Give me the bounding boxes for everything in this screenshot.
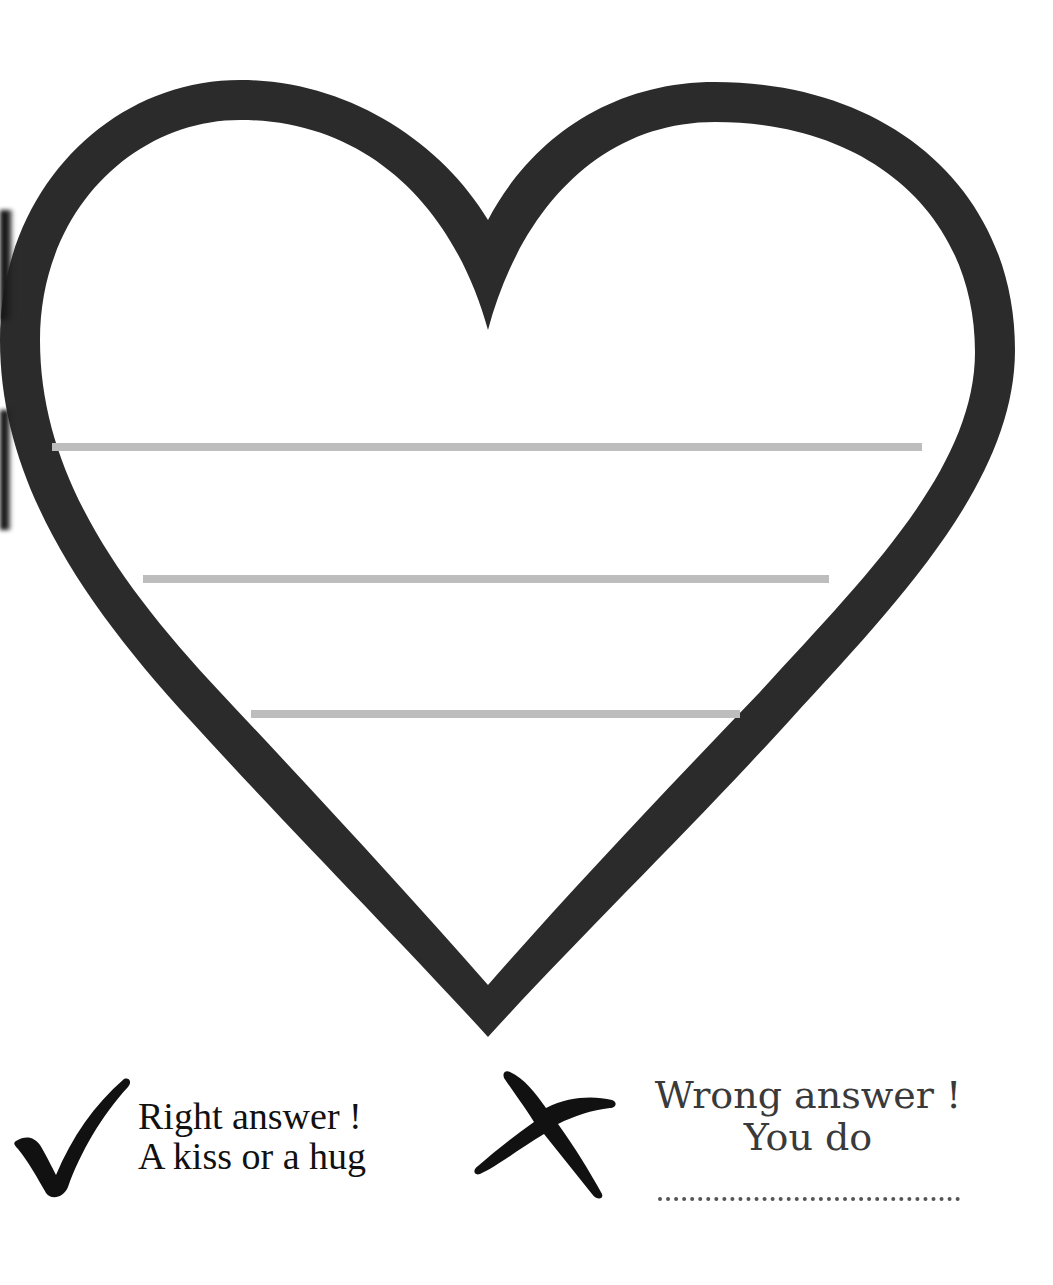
- right-answer-line2: A kiss or a hug: [138, 1136, 366, 1176]
- cross-icon: [474, 1068, 624, 1200]
- wrong-answer-text: Wrong answer ! You do: [650, 1074, 966, 1158]
- right-answer-line1: Right answer !: [138, 1096, 366, 1136]
- wrong-answer-line1: Wrong answer !: [650, 1074, 966, 1116]
- right-answer-text: Right answer ! A kiss or a hug: [138, 1096, 366, 1176]
- scan-artifact: [0, 210, 14, 320]
- scan-artifact: [0, 410, 12, 530]
- checkmark-icon: [12, 1075, 130, 1200]
- writing-line-1[interactable]: [52, 443, 922, 451]
- writing-line-3[interactable]: [251, 710, 740, 718]
- heart-shape-icon: [0, 80, 1015, 1037]
- writing-line-2[interactable]: [143, 575, 829, 583]
- wrong-answer-line2: You do: [650, 1116, 966, 1158]
- forfeit-blank-field[interactable]: [658, 1197, 960, 1201]
